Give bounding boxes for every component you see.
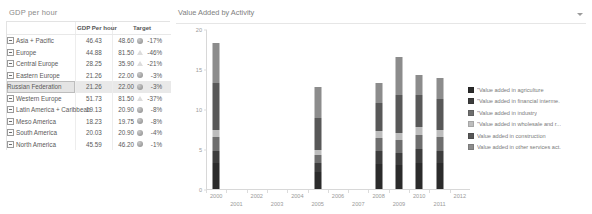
row-label-cell[interactable]: Central Europe xyxy=(7,58,76,70)
bar-segment xyxy=(213,43,220,84)
legend-item[interactable]: "Value added in financial interme. xyxy=(468,96,592,108)
variance-percent: -1% xyxy=(146,141,162,148)
x-tick-label: 2005 xyxy=(311,201,323,207)
status-circle-icon xyxy=(137,107,143,113)
bar-segment xyxy=(213,151,220,164)
expand-collapse-icon[interactable] xyxy=(7,106,14,113)
x-tick-label: 2004 xyxy=(291,193,303,199)
bar-column[interactable] xyxy=(213,43,220,189)
gdp-value-cell: 21.26 xyxy=(76,70,113,82)
row-label: Europe xyxy=(16,49,36,56)
expand-collapse-icon[interactable] xyxy=(7,141,14,148)
row-label-cell[interactable]: South America xyxy=(7,127,76,139)
variance-percent: -8% xyxy=(146,106,162,113)
bar-column[interactable] xyxy=(436,78,443,189)
row-label: Central Europe xyxy=(16,60,58,67)
x-tick-mark xyxy=(267,190,268,193)
legend-item[interactable]: "Value added in agriculture xyxy=(468,84,592,96)
bar-segment xyxy=(314,172,321,189)
table-row[interactable]: Latin America + Caribbean19.1320.90-8% xyxy=(7,104,171,116)
expand-collapse-icon[interactable] xyxy=(7,60,14,67)
bar-segment xyxy=(213,83,220,129)
gdp-value-cell: 18.23 xyxy=(76,116,113,128)
bar-segment xyxy=(416,135,423,149)
legend-swatch xyxy=(468,144,474,150)
expand-collapse-icon[interactable] xyxy=(7,118,14,125)
row-label-cell[interactable]: Eastern Europe xyxy=(7,70,76,82)
legend-item[interactable]: Value added in construction xyxy=(468,130,592,142)
target-value: 46.20 xyxy=(117,141,134,148)
bar-segment xyxy=(375,138,382,152)
x-tick-label: 2012 xyxy=(454,193,466,199)
bar-segment xyxy=(436,163,443,189)
bar-segment xyxy=(213,163,220,189)
table-row[interactable]: Western Europe51.7381.50-37% xyxy=(7,93,171,105)
variance-percent: -3% xyxy=(146,72,162,79)
bar-segment xyxy=(416,163,423,189)
chart-plot-area: 05101520 2000200120022003200420052006200… xyxy=(180,24,586,210)
legend-item[interactable]: Value added in other services act. xyxy=(468,142,592,154)
row-label-cell[interactable]: North America xyxy=(7,139,76,151)
x-tick-label: 2008 xyxy=(372,193,384,199)
expand-collapse-icon[interactable] xyxy=(7,129,14,136)
bar-segment xyxy=(314,155,321,164)
table-row[interactable]: Europe44.8881.50-46% xyxy=(7,47,171,59)
row-label-cell[interactable]: Meso America xyxy=(7,116,76,128)
target-value: 22.00 xyxy=(117,83,134,90)
target-value: 81.50 xyxy=(117,49,134,56)
chevron-down-icon[interactable] xyxy=(575,10,584,19)
column-header-gdp[interactable]: GDP Per hour xyxy=(76,22,113,35)
row-label-cell[interactable]: Asia + Pacific xyxy=(7,35,76,47)
target-value: 22.00 xyxy=(117,72,134,79)
chart-axes: 05101520 2000200120022003200420052006200… xyxy=(206,30,470,190)
row-label-cell[interactable]: Latin America + Caribbean xyxy=(7,104,76,116)
gdp-value-cell: 45.59 xyxy=(76,139,113,151)
bar-segment xyxy=(395,165,402,189)
table-row[interactable]: Eastern Europe21.2622.00-3% xyxy=(7,70,171,82)
table-row[interactable]: South America20.0320.90-4% xyxy=(7,127,171,139)
legend-label: Value added in construction xyxy=(477,133,546,139)
legend-label: Value added in other services act. xyxy=(477,144,561,150)
variance-percent: -4% xyxy=(146,129,162,136)
target-value: 81.50 xyxy=(117,95,134,102)
bar-column[interactable] xyxy=(314,87,321,189)
gdp-value-cell: 46.43 xyxy=(76,35,113,47)
row-label: Meso America xyxy=(16,118,56,125)
dashboard-root: GDP per hour GDP Per hour Target Asia + … xyxy=(0,0,592,214)
target-value: 20.90 xyxy=(117,129,134,136)
table-row[interactable]: Central Europe28.2535.90-21% xyxy=(7,58,171,70)
expand-collapse-icon[interactable] xyxy=(7,49,14,56)
target-value: 48.60 xyxy=(117,37,134,44)
expand-collapse-icon[interactable] xyxy=(7,95,14,102)
table-row[interactable]: Russian Federation21.2622.00-3% xyxy=(7,81,171,93)
x-tick-mark xyxy=(287,190,288,193)
target-cell: 22.00-3% xyxy=(113,70,172,82)
legend-item[interactable]: "Value added in wholesale and r... xyxy=(468,119,592,131)
table-row[interactable]: Meso America18.2319.75-8% xyxy=(7,116,171,128)
bar-column[interactable] xyxy=(375,83,382,189)
table-row[interactable]: Asia + Pacific46.4348.60-17% xyxy=(7,35,171,47)
status-circle-icon xyxy=(137,118,143,124)
variance-percent: -21% xyxy=(146,60,162,67)
bar-column[interactable] xyxy=(416,75,423,189)
row-label-cell[interactable]: Russian Federation xyxy=(7,81,76,93)
row-label-cell[interactable]: Western Europe xyxy=(7,93,76,105)
expand-collapse-icon[interactable] xyxy=(7,37,14,44)
legend-item[interactable]: "Value added in industry xyxy=(468,107,592,119)
expand-collapse-icon[interactable] xyxy=(7,72,14,79)
row-label-cell[interactable]: Europe xyxy=(7,47,76,59)
row-label: Eastern Europe xyxy=(16,72,60,79)
row-label: Western Europe xyxy=(16,95,61,102)
bar-column[interactable] xyxy=(395,57,402,189)
target-cell: 20.90-4% xyxy=(113,127,172,139)
legend-swatch xyxy=(468,98,474,104)
x-tick-label: 2006 xyxy=(332,193,344,199)
status-circle-icon xyxy=(137,38,143,44)
target-cell: 22.00-3% xyxy=(113,81,172,93)
column-header-target[interactable]: Target xyxy=(113,22,172,35)
gdp-value-cell: 51.73 xyxy=(76,93,113,105)
column-header-name[interactable] xyxy=(7,22,76,35)
legend-swatch xyxy=(468,133,474,139)
table-row[interactable]: North America45.5946.20-1% xyxy=(7,139,171,151)
variance-percent: -8% xyxy=(146,118,162,125)
